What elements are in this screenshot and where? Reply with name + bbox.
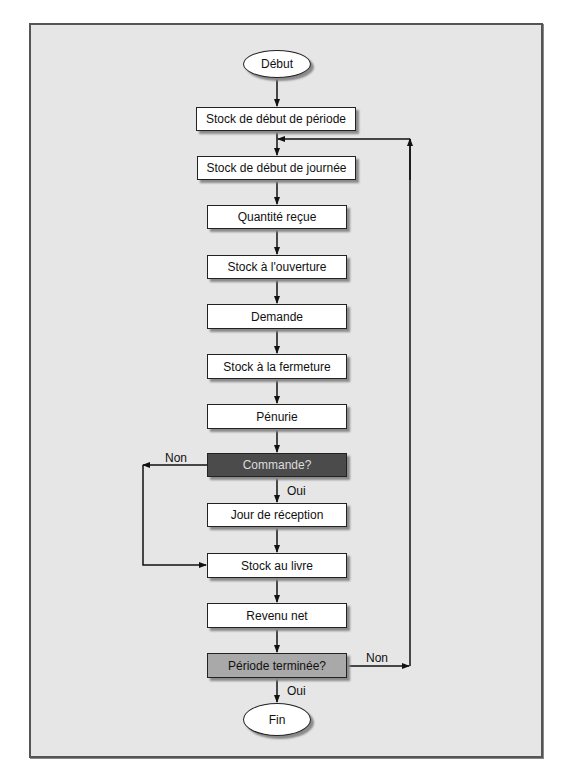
stock-fermeture-node: Stock à la fermeture <box>207 354 347 379</box>
stock-debut-periode-node: Stock de début de période <box>196 107 356 131</box>
revenu-net-label: Revenu net <box>246 609 307 623</box>
commande-non-label: Non <box>165 451 187 465</box>
jour-reception-node: Jour de réception <box>207 503 347 527</box>
stock-ouverture-label: Stock à l'ouverture <box>227 260 326 274</box>
commande-label: Commande? <box>243 458 312 472</box>
penurie-label: Pénurie <box>256 410 297 424</box>
revenu-net-node: Revenu net <box>207 603 347 628</box>
stock-livre-label: Stock au livre <box>241 559 313 573</box>
stock-debut-journee-node: Stock de début de journée <box>197 156 356 180</box>
commande-decision-node: Commande? <box>207 453 347 477</box>
demande-node: Demande <box>207 304 347 329</box>
periode-terminee-label: Période terminée? <box>228 659 326 673</box>
start-node: Début <box>243 50 311 78</box>
periode-non-label: Non <box>366 651 388 665</box>
end-node: Fin <box>243 703 311 736</box>
quantite-recue-label: Quantité reçue <box>238 210 317 224</box>
jour-reception-label: Jour de réception <box>231 508 324 522</box>
periode-oui-label: Oui <box>287 684 306 698</box>
stock-debut-journee-label: Stock de début de journée <box>206 161 346 175</box>
demande-label: Demande <box>251 310 303 324</box>
quantite-recue-node: Quantité reçue <box>207 205 347 229</box>
stock-ouverture-node: Stock à l'ouverture <box>207 255 347 279</box>
stock-debut-periode-label: Stock de début de période <box>206 112 346 126</box>
commande-oui-label: Oui <box>287 484 306 498</box>
periode-terminee-decision-node: Période terminée? <box>207 653 347 678</box>
end-label: Fin <box>269 713 286 727</box>
start-label: Début <box>261 57 293 71</box>
stock-fermeture-label: Stock à la fermeture <box>223 360 330 374</box>
penurie-node: Pénurie <box>207 404 347 429</box>
stock-livre-node: Stock au livre <box>207 553 347 578</box>
